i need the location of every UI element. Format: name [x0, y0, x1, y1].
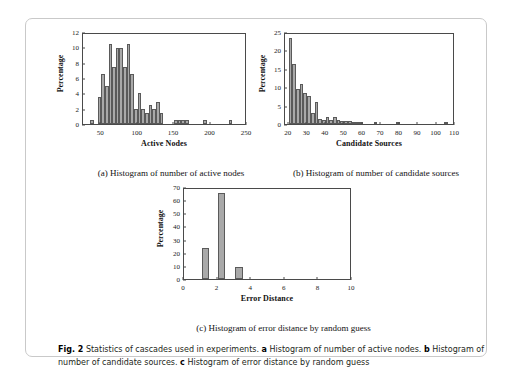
- x-tick-mark: [454, 122, 455, 125]
- x-tick-label: 110: [449, 126, 459, 137]
- chart-c-plot-area: [183, 188, 351, 280]
- histogram-bar: [218, 193, 226, 279]
- histogram-bar: [444, 122, 448, 124]
- y-tick-label: 15: [274, 66, 284, 74]
- y-tick-label: 10: [274, 84, 284, 92]
- caption-panel-a-marker: a: [262, 345, 267, 354]
- caption-panel-c-text: Histogram of error distance by random gu…: [187, 358, 369, 367]
- y-tick-label: 20: [274, 47, 284, 55]
- x-tick-mark: [209, 122, 210, 125]
- histogram-bar: [90, 120, 94, 124]
- x-tick-label: 80: [395, 126, 402, 137]
- histogram-bar: [185, 120, 189, 124]
- y-tick-mark: [284, 33, 287, 34]
- histogram-bar: [202, 248, 210, 279]
- y-tick-label: 10: [173, 263, 183, 271]
- chart-candidate-sources: Percentage 0510152025 203040506070809010…: [254, 27, 464, 157]
- y-tick-mark: [183, 253, 186, 254]
- y-tick-label: 12: [72, 29, 82, 37]
- y-tick-mark: [183, 240, 186, 241]
- chart-a-ylabel: Percentage: [56, 44, 65, 104]
- chart-a-bars: [83, 34, 245, 124]
- x-tick-label: 50: [97, 126, 104, 137]
- y-tick-mark: [82, 79, 85, 80]
- y-tick-mark: [82, 48, 85, 49]
- subcaption-a: (a) Histogram of number of active nodes: [76, 167, 266, 179]
- x-tick-label: 6: [282, 281, 286, 292]
- figure-caption: Fig. 2 Statistics of cascades used in ex…: [58, 344, 510, 369]
- y-tick-mark: [284, 51, 287, 52]
- y-tick-mark: [82, 33, 85, 34]
- y-tick-mark: [183, 214, 186, 215]
- x-tick-mark: [250, 277, 251, 280]
- x-tick-label: 0: [181, 281, 185, 292]
- subcaption-b: (b) Histogram of number of candidate sou…: [271, 167, 481, 179]
- x-tick-label: 2: [215, 281, 219, 292]
- chart-c-bars: [184, 189, 350, 279]
- histogram-bar: [203, 120, 207, 124]
- x-tick-mark: [100, 122, 101, 125]
- y-tick-label: 50: [173, 210, 183, 218]
- figure-border-box: Percentage 024681012 50100150200250 Acti…: [25, 18, 487, 357]
- y-tick-label: 10: [72, 44, 82, 52]
- y-tick-mark: [284, 106, 287, 107]
- caption-panel-a-text: Histogram of number of active nodes.: [270, 345, 422, 354]
- x-tick-label: 8: [316, 281, 320, 292]
- x-tick-mark: [380, 122, 381, 125]
- x-tick-mark: [183, 277, 184, 280]
- x-tick-mark: [417, 122, 418, 125]
- histogram-bar: [160, 113, 164, 124]
- subcaption-c: (c) Histogram of error distance by rando…: [176, 322, 391, 334]
- x-tick-mark: [398, 122, 399, 125]
- y-tick-label: 60: [173, 197, 183, 205]
- histogram-bar: [229, 120, 233, 124]
- x-tick-mark: [343, 122, 344, 125]
- x-tick-mark: [287, 122, 288, 125]
- y-tick-mark: [82, 94, 85, 95]
- chart-a-plot-area: [82, 33, 246, 125]
- y-tick-mark: [284, 88, 287, 89]
- x-tick-mark: [283, 277, 284, 280]
- figure-number: Fig. 2: [58, 345, 83, 354]
- y-tick-mark: [82, 125, 85, 126]
- histogram-bar: [374, 122, 378, 124]
- x-tick-mark: [361, 122, 362, 125]
- figure-caption-intro: Statistics of cascades used in experimen…: [86, 345, 259, 354]
- x-tick-mark: [306, 122, 307, 125]
- caption-panel-c-marker: c: [180, 358, 185, 367]
- x-tick-label: 30: [303, 126, 310, 137]
- y-tick-mark: [183, 188, 186, 189]
- chart-active-nodes: Percentage 024681012 50100150200250 Acti…: [54, 27, 254, 157]
- x-tick-label: 40: [321, 126, 328, 137]
- x-tick-mark: [317, 277, 318, 280]
- chart-b-plot-area: [284, 33, 454, 125]
- x-tick-mark: [324, 122, 325, 125]
- x-tick-label: 60: [358, 126, 365, 137]
- x-tick-label: 200: [204, 126, 215, 137]
- y-tick-label: 30: [173, 237, 183, 245]
- x-tick-mark: [246, 122, 247, 125]
- x-tick-label: 90: [414, 126, 421, 137]
- chart-c-ylabel: Percentage: [156, 199, 165, 259]
- x-tick-label: 70: [377, 126, 384, 137]
- x-tick-mark: [136, 122, 137, 125]
- x-tick-mark: [351, 277, 352, 280]
- y-tick-label: 20: [173, 250, 183, 258]
- x-tick-label: 250: [241, 126, 252, 137]
- y-tick-mark: [284, 69, 287, 70]
- x-tick-label: 10: [348, 281, 355, 292]
- y-tick-mark: [183, 201, 186, 202]
- chart-error-distance: Percentage 010203040506070 0246810 Error…: [151, 182, 361, 312]
- y-tick-label: 25: [274, 29, 284, 37]
- caption-panel-b-marker: b: [424, 345, 430, 354]
- y-tick-mark: [82, 63, 85, 64]
- x-tick-label: 150: [168, 126, 179, 137]
- y-tick-label: 40: [173, 223, 183, 231]
- x-tick-mark: [173, 122, 174, 125]
- y-tick-mark: [183, 266, 186, 267]
- x-tick-label: 4: [248, 281, 252, 292]
- histogram-bar: [235, 267, 243, 279]
- chart-b-xlabel: Candidate Sources: [284, 139, 454, 148]
- chart-c-xlabel: Error Distance: [183, 294, 351, 303]
- x-tick-label: 50: [340, 126, 347, 137]
